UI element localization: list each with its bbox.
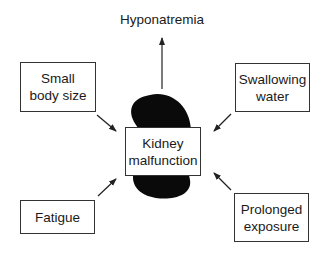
arrow-from-fatigue xyxy=(98,179,116,196)
center-line2: malfunction xyxy=(128,152,197,169)
factor-line2: exposure xyxy=(241,218,303,235)
kidney-malfunction-box: Kidney malfunction xyxy=(125,127,201,176)
arrow-from-prolonged-exposure xyxy=(214,173,231,190)
swallowing-water-box: Swallowing water xyxy=(235,63,310,112)
prolonged-exposure-box: Prolonged exposure xyxy=(234,193,309,242)
factor-line1: Prolonged xyxy=(241,201,303,218)
hyponatremia-label: Hyponatremia xyxy=(112,12,212,27)
factor-line1: Fatigue xyxy=(35,209,80,226)
arrow-from-small-body-size xyxy=(97,115,116,131)
factor-line2: water xyxy=(239,88,307,105)
factor-line1: Small xyxy=(29,70,86,87)
factor-line2: body size xyxy=(29,87,86,104)
arrow-from-swallowing-water xyxy=(214,114,231,131)
center-line1: Kidney xyxy=(128,135,197,152)
fatigue-box: Fatigue xyxy=(20,200,95,234)
small-body-size-box: Small body size xyxy=(20,62,96,112)
factor-line1: Swallowing xyxy=(239,71,307,88)
